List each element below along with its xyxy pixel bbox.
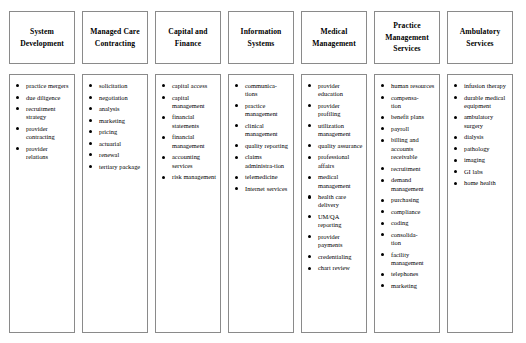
column-practice-management-services: Practice Management Serviceshuman resour… bbox=[374, 11, 440, 333]
bullet-icon bbox=[162, 116, 165, 119]
list-item-label: recruitment bbox=[391, 165, 436, 173]
list-item: financial management bbox=[161, 133, 217, 150]
list-item: home health bbox=[453, 179, 509, 187]
bullet-icon bbox=[381, 116, 384, 119]
bullet-icon bbox=[381, 167, 384, 170]
list-item: medical management bbox=[307, 173, 363, 190]
list-item: facility management bbox=[380, 251, 436, 268]
list-item-label: home health bbox=[464, 179, 509, 187]
list-item: capital access bbox=[161, 82, 217, 90]
list-item: telephones bbox=[380, 270, 436, 278]
body-box-system-development: practice mergersdue diligencerecruitment… bbox=[9, 74, 75, 333]
list-item: chart review bbox=[307, 264, 363, 272]
item-list: communica-tionspractice managementclinic… bbox=[234, 82, 290, 193]
list-item-label: benefit plans bbox=[391, 113, 436, 121]
bullet-icon bbox=[381, 253, 384, 256]
body-box-managed-care-contracting: solicitationnegotiationanalysismarketing… bbox=[82, 74, 148, 333]
list-item: pricing bbox=[88, 128, 144, 136]
bullet-icon bbox=[454, 182, 457, 185]
list-item-label: due diligence bbox=[26, 94, 71, 102]
list-item: purchasing bbox=[380, 196, 436, 204]
list-item-label: quality reporting bbox=[245, 142, 290, 150]
list-item: coding bbox=[380, 219, 436, 227]
bullet-icon bbox=[381, 284, 384, 287]
list-item-label: communica-tions bbox=[245, 82, 290, 99]
bullet-icon bbox=[235, 144, 238, 147]
bullet-icon bbox=[89, 84, 92, 87]
column-title: Managed Care Contracting bbox=[84, 26, 146, 49]
bullet-icon bbox=[308, 195, 311, 198]
list-item-label: quality assurance bbox=[318, 142, 363, 150]
list-item: accounting services bbox=[161, 153, 217, 170]
list-item: consolida-tion bbox=[380, 231, 436, 248]
list-item-label: provider relations bbox=[26, 145, 71, 162]
bullet-icon bbox=[454, 147, 457, 150]
bullet-icon bbox=[308, 84, 311, 87]
body-box-medical-management: provider educationprovider profilingutil… bbox=[301, 74, 367, 333]
list-item: provider relations bbox=[15, 145, 71, 162]
header-box-capital-and-finance: Capital and Finance bbox=[155, 11, 221, 64]
list-item-label: risk management bbox=[172, 173, 217, 181]
list-item-label: credentialing bbox=[318, 253, 363, 261]
list-item: actuarial bbox=[88, 140, 144, 148]
bullet-icon bbox=[454, 170, 457, 173]
list-item-label: accounting services bbox=[172, 153, 217, 170]
bullet-icon bbox=[454, 96, 457, 99]
list-item: UM/QA reporting bbox=[307, 213, 363, 230]
bullet-icon bbox=[454, 116, 457, 119]
list-item-label: purchasing bbox=[391, 196, 436, 204]
bullet-icon bbox=[16, 127, 19, 130]
list-item-label: GI labs bbox=[464, 168, 509, 176]
body-box-ambulatory-services: infusion therapydurable medical equipmen… bbox=[447, 74, 513, 333]
bullet-icon bbox=[308, 104, 311, 107]
list-item: ambulatory surgery bbox=[453, 113, 509, 130]
list-item-label: claims administra-tion bbox=[245, 153, 290, 170]
list-item: practice management bbox=[234, 102, 290, 119]
list-item-label: medical management bbox=[318, 173, 363, 190]
list-item: financial statements bbox=[161, 113, 217, 130]
list-item: provider profiling bbox=[307, 102, 363, 119]
bullet-icon bbox=[308, 124, 311, 127]
list-item: solicitation bbox=[88, 82, 144, 90]
list-item: provider payments bbox=[307, 233, 363, 250]
bullet-icon bbox=[89, 107, 92, 110]
bullet-icon bbox=[381, 222, 384, 225]
bullet-icon bbox=[381, 233, 384, 236]
header-box-practice-management-services: Practice Management Services bbox=[374, 11, 440, 64]
list-item: provider education bbox=[307, 82, 363, 99]
bullet-icon bbox=[89, 165, 92, 168]
list-item-label: pricing bbox=[99, 128, 144, 136]
bullet-icon bbox=[381, 84, 384, 87]
bullet-icon bbox=[162, 136, 165, 139]
list-item-label: capital management bbox=[172, 94, 217, 111]
list-item-label: actuarial bbox=[99, 140, 144, 148]
column-ambulatory-services: Ambulatory Servicesinfusion therapydurab… bbox=[447, 11, 513, 333]
list-item-label: UM/QA reporting bbox=[318, 213, 363, 230]
item-list: provider educationprovider profilingutil… bbox=[307, 82, 363, 273]
list-item-label: practice management bbox=[245, 102, 290, 119]
column-title: System Development bbox=[11, 26, 73, 49]
bullet-icon bbox=[16, 147, 19, 150]
bullet-icon bbox=[16, 107, 19, 110]
bullet-icon bbox=[308, 255, 311, 258]
column-capital-and-finance: Capital and Financecapital accesscapital… bbox=[155, 11, 221, 333]
header-box-medical-management: Medical Management bbox=[301, 11, 367, 64]
item-list: infusion therapydurable medical equipmen… bbox=[453, 82, 509, 188]
list-item-label: infusion therapy bbox=[464, 82, 509, 90]
list-item: professional affairs bbox=[307, 153, 363, 170]
column-title: Medical Management bbox=[303, 26, 365, 49]
list-item-label: provider profiling bbox=[318, 102, 363, 119]
list-item-label: negotiation bbox=[99, 94, 144, 102]
list-item: quality reporting bbox=[234, 142, 290, 150]
list-item-label: provider contracting bbox=[26, 125, 71, 142]
bullet-icon bbox=[162, 96, 165, 99]
list-item: utilization management bbox=[307, 122, 363, 139]
bullet-icon bbox=[454, 159, 457, 162]
bullet-icon bbox=[381, 179, 384, 182]
list-item: compliance bbox=[380, 208, 436, 216]
list-item: infusion therapy bbox=[453, 82, 509, 90]
list-item-label: financial statements bbox=[172, 113, 217, 130]
bullet-icon bbox=[89, 153, 92, 156]
item-list: human resourcescompensa-tionbenefit plan… bbox=[380, 82, 436, 290]
diagram-columns: System Developmentpractice mergersdue di… bbox=[9, 11, 513, 333]
